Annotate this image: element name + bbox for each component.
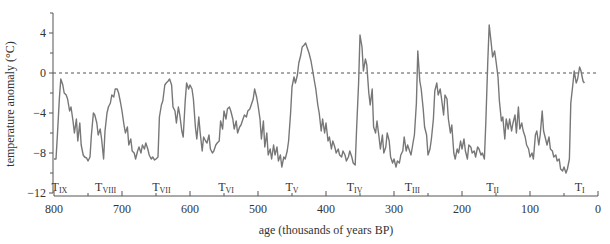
- termination-label-iv: TIV: [347, 180, 363, 195]
- x-axis: 8007006005004003002001000: [45, 191, 601, 216]
- x-tick-label: 300: [385, 202, 403, 216]
- y-axis: 40−4−8−12: [27, 13, 53, 200]
- x-tick-label: 400: [317, 202, 335, 216]
- termination-label-v: TV: [285, 180, 298, 195]
- x-tick-label: 100: [521, 202, 539, 216]
- y-tick-label: −12: [27, 186, 46, 200]
- x-tick-label: 800: [45, 202, 63, 216]
- x-tick-label: 700: [113, 202, 131, 216]
- termination-label-iii: TIII: [405, 180, 421, 195]
- temperature-series-line: [54, 25, 584, 173]
- termination-label-ix: TIX: [52, 180, 68, 195]
- termination-label-i: TI: [575, 180, 585, 195]
- y-axis-title: temperature anomaly (°C): [3, 41, 17, 166]
- x-tick-label: 500: [249, 202, 267, 216]
- x-axis-title: age (thousands of years BP): [259, 223, 394, 237]
- termination-label-vii: TVII: [152, 180, 171, 195]
- termination-label-vi: TVI: [218, 180, 234, 195]
- temperature-anomaly-chart: 40−4−8−12 8007006005004003002001000 TIXT…: [0, 0, 610, 244]
- y-tick-label: 0: [40, 66, 46, 80]
- x-tick-label: 600: [181, 202, 199, 216]
- termination-label-ii: TII: [486, 180, 499, 195]
- y-tick-label: −4: [33, 106, 46, 120]
- x-tick-label: 0: [595, 202, 601, 216]
- x-tick-label: 200: [453, 202, 471, 216]
- y-tick-label: −8: [33, 146, 46, 160]
- termination-labels: TIXTVIIITVIITVITVTIVTIIITIITI: [52, 180, 585, 195]
- termination-label-viii: TVIII: [95, 180, 116, 195]
- y-tick-label: 4: [40, 26, 46, 40]
